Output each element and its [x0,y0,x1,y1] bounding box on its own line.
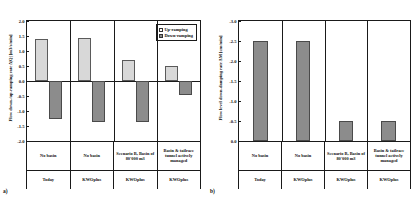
panel-b-plot-area: -3.0-2.5-2.0-1.5-1.0-0.50.0 [238,20,411,142]
y-axis-tick-mark [239,61,241,62]
y-axis-tick-label: 1.0 [19,49,27,54]
x-category-scenario: Basin & tailrace tunnel actively managed [368,142,410,171]
x-category-mode: Today [239,171,281,189]
bar-down-ramping-1 [92,81,105,122]
y-axis-tick-mark [239,81,241,82]
legend-label-down-ramping: Down-ramping [164,33,193,39]
panel-b: Flow level down-damping rate ΔM [cm/min]… [210,0,419,197]
panel-a-label: a) [3,188,8,194]
bar-up-ramping-1 [78,38,91,82]
legend-swatch-down-ramping-icon [159,34,163,38]
y-axis-tick-label: -0.5 [17,94,27,99]
column-separator [157,21,158,141]
panel-a-plot-area: Up-ramping Down-ramping 2.01.51.00.50.0-… [26,20,201,142]
panel-a-y-axis-title: Flow down-/up-ramping rate Δ|Q| [m3/s/mi… [6,8,16,148]
column-separator [367,21,368,141]
column-separator [114,21,115,141]
y-axis-tick-label: 2.0 [19,19,27,24]
x-category-mode: KWOplus [368,171,410,189]
x-category-column: Scenario B, Basin of 80'000 m3 KWOplus [114,142,158,189]
y-axis-tick-mark [239,41,241,42]
legend: Up-ramping Down-ramping [156,24,197,41]
bar-down-damping-3 [381,121,396,141]
panel-b-x-axis-categories: No basin Today No basin KWOplus Scenario… [238,142,411,189]
bar-down-ramping-0 [49,81,62,119]
column-separator [282,21,283,141]
y-axis-tick-label: -2.5 [229,39,239,44]
y-axis-tick-mark [27,21,29,22]
x-category-column: Scenario B, Basin of 80'000 m3 KWOplus [325,142,368,189]
x-category-scenario: Scenario B, Basin of 80'000 m3 [114,142,157,171]
x-category-scenario: Basin & tailrace tunnel actively managed [158,142,201,171]
y-axis-tick-label: 0.5 [19,64,27,69]
y-axis-tick-mark [239,101,241,102]
y-axis-tick-mark [239,121,241,122]
x-category-scenario: No basin [239,142,281,171]
y-axis-tick-label: -1.5 [17,124,27,129]
bar-down-ramping-2 [136,81,149,122]
bar-up-ramping-2 [122,60,135,81]
y-axis-tick-label: -3.0 [229,19,239,24]
y-axis-tick-label: -1.0 [229,99,239,104]
bar-down-damping-1 [296,41,311,141]
x-category-scenario: No basin [71,142,114,171]
y-axis-tick-mark [27,36,29,37]
panel-b-y-axis-title: Flow level down-damping rate ΔM [cm/min] [216,8,226,148]
y-axis-tick-mark [27,126,29,127]
x-category-column: No basin Today [27,142,71,189]
x-category-mode: KWOplus [71,171,114,189]
y-axis-tick-mark [27,66,29,67]
x-category-column: Basin & tailrace tunnel actively managed… [158,142,201,189]
y-axis-tick-label: 0.0 [19,79,27,84]
y-axis-tick-mark [27,111,29,112]
panel-a: Flow down-/up-ramping rate Δ|Q| [m3/s/mi… [0,0,209,197]
x-category-mode: KWOplus [282,171,324,189]
x-category-mode: KWOplus [158,171,201,189]
y-axis-tick-label: 1.5 [19,34,27,39]
column-separator [325,21,326,141]
bar-down-ramping-3 [179,81,192,95]
y-axis-tick-label: -2.0 [229,59,239,64]
bar-up-ramping-0 [35,39,48,81]
x-category-column: No basin KWOplus [71,142,115,189]
y-axis-tick-mark [27,51,29,52]
y-axis-tick-mark [27,96,29,97]
x-category-scenario: Scenario B, Basin of 80'000 m3 [325,142,367,171]
panel-b-label: b) [210,188,215,194]
figure-two-panel-bar-charts: Flow down-/up-ramping rate Δ|Q| [m3/s/mi… [0,0,419,197]
x-category-mode: KWOplus [114,171,157,189]
y-axis-tick-label: -1.5 [229,79,239,84]
y-axis-tick-label: -1.0 [17,109,27,114]
x-category-scenario: No basin [282,142,324,171]
x-category-mode: Today [27,171,70,189]
panel-a-x-axis-categories: No basin Today No basin KWOplus Scenario… [26,142,201,189]
y-axis-tick-mark [239,21,241,22]
legend-swatch-up-ramping-icon [159,28,163,32]
x-category-mode: KWOplus [325,171,367,189]
x-category-column: No basin KWOplus [282,142,325,189]
bar-up-ramping-3 [165,66,178,81]
x-category-column: No basin Today [239,142,282,189]
legend-item-down-ramping: Down-ramping [159,33,193,39]
bar-down-damping-0 [253,41,268,141]
y-axis-tick-label: -0.5 [229,119,239,124]
column-separator [70,21,71,141]
x-category-scenario: No basin [27,142,70,171]
x-category-column: Basin & tailrace tunnel actively managed… [368,142,410,189]
bar-down-damping-2 [339,121,354,141]
